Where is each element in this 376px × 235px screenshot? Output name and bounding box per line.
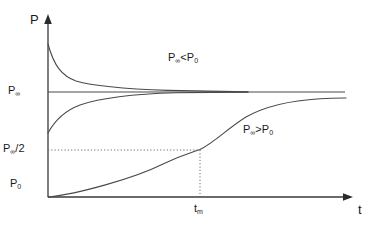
annotation-growing-case: P∞>P0 bbox=[243, 124, 273, 136]
tick-subscript: ∞ bbox=[15, 90, 20, 97]
population-growth-figure: P t P∞ P∞/2 P0 tm P∞<P0 P∞>P0 bbox=[0, 0, 376, 235]
annotation-decaying-case: P∞<P0 bbox=[168, 52, 198, 64]
tick-subscript: m bbox=[197, 208, 203, 215]
y-tick-label-p-zero: P0 bbox=[10, 178, 21, 190]
y-tick-label-p-infinity-half: P∞/2 bbox=[3, 143, 25, 155]
logistic-curve bbox=[48, 98, 346, 197]
decay-curve bbox=[48, 44, 248, 92]
x-axis-label-text: t bbox=[358, 202, 362, 217]
y-axis-label-text: P bbox=[30, 12, 39, 27]
saturating-growth-curve bbox=[48, 92, 248, 133]
tick-subscript: 0 bbox=[17, 183, 21, 190]
y-axis-arrow bbox=[44, 14, 52, 24]
x-axis-label: t bbox=[358, 203, 362, 216]
annotation-subscript-2: 0 bbox=[194, 57, 198, 64]
x-axis-arrow bbox=[343, 193, 353, 201]
y-axis-label: P bbox=[30, 13, 39, 26]
annotation-subscript-2: 0 bbox=[269, 129, 273, 136]
plot-canvas bbox=[0, 0, 376, 235]
y-tick-label-p-infinity: P∞ bbox=[8, 85, 20, 97]
x-tick-label-t-m: tm bbox=[194, 203, 203, 215]
tick-suffix: /2 bbox=[15, 142, 24, 154]
